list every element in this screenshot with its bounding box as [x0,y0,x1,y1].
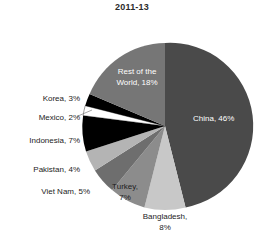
slice-label-bangladesh-line1: Bangladesh, [125,211,205,222]
slice-label-turkey-line2: 7% [105,192,145,203]
slice-label-korea: Korea, 3% [6,93,80,104]
slice-label-mexico: Mexico, 2% [6,112,80,123]
slice-label-turkey-line1: Turkey, [105,181,145,192]
slice-label-rest-of-world: Rest of the World, 18% [104,66,170,88]
slice-label-viet-nam: Viet Nam, 5% [4,186,90,197]
slice-label-pakistan: Pakistan, 4% [4,164,80,175]
slice-label-turkey: Turkey, 7% [105,181,145,203]
pie-chart-figure: 2011-13 Rest of the W [0,0,264,240]
slice-label-indonesia: Indonesia, 7% [2,135,80,146]
slice-label-rest-of-world-line2: World, 18% [104,77,170,88]
slice-label-bangladesh: Bangladesh, 8% [125,211,205,233]
slice-label-bangladesh-line2: 8% [125,222,205,233]
slice-label-rest-of-world-line1: Rest of the [104,66,170,77]
slice-label-china: China, 46% [193,113,234,124]
